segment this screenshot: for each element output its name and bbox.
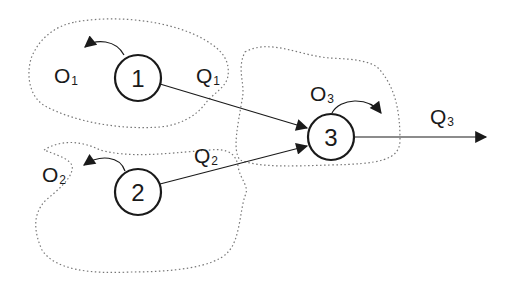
label-o1: O1 bbox=[54, 64, 78, 88]
label-q1: Q1 bbox=[196, 64, 220, 88]
node-1-label: 1 bbox=[131, 65, 144, 92]
label-q2: Q2 bbox=[194, 144, 218, 168]
node-2: 2 bbox=[115, 169, 161, 215]
label-q3: Q3 bbox=[430, 105, 454, 129]
edge-2-to-3 bbox=[160, 146, 307, 184]
label-o3: O3 bbox=[310, 82, 334, 106]
outflow-2-arrow bbox=[84, 158, 125, 171]
node-1: 1 bbox=[115, 55, 161, 101]
node-3: 3 bbox=[308, 114, 354, 160]
node-2-label: 2 bbox=[131, 179, 144, 206]
outflow-3-arrow bbox=[332, 101, 381, 113]
flow-diagram: 1 2 3 O1 Q1 O2 Q2 O3 Q3 bbox=[0, 0, 511, 292]
label-o2: O2 bbox=[42, 163, 66, 187]
outflow-1-arrow bbox=[85, 42, 124, 55]
node-3-label: 3 bbox=[324, 124, 337, 151]
